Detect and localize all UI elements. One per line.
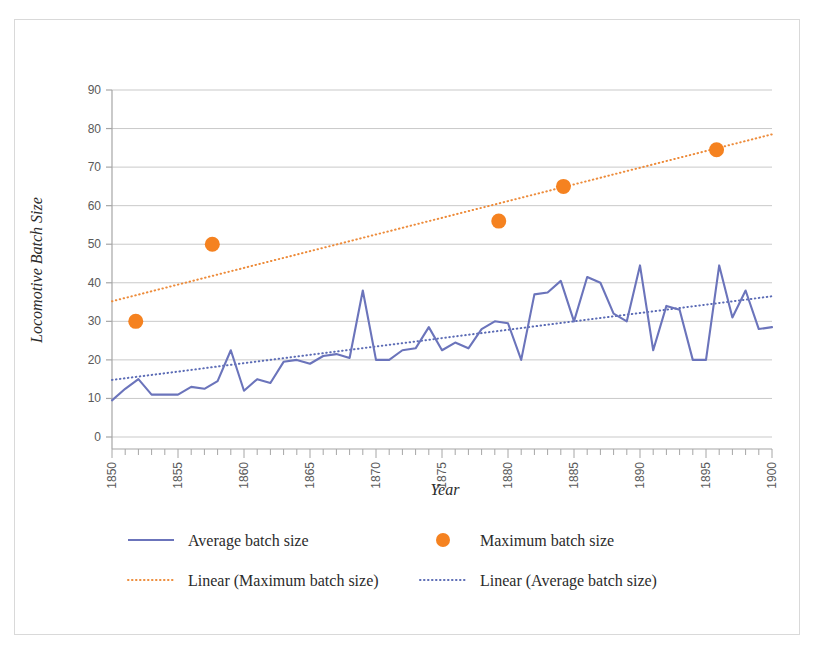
x-tick-label: 1880 <box>501 462 515 489</box>
y-tick-label: 20 <box>88 353 102 367</box>
legend-dot-swatch <box>436 533 450 547</box>
max-batch-point <box>128 314 143 329</box>
trendline <box>112 134 772 301</box>
y-tick-label: 0 <box>94 430 101 444</box>
x-tick-label: 1870 <box>369 462 383 489</box>
maximum-trendline <box>112 134 772 301</box>
y-axis-title: Locomotive Batch Size <box>28 197 45 344</box>
legend-item[interactable]: Average batch size <box>128 532 309 550</box>
max-batch-point <box>556 179 571 194</box>
y-tick-label: 60 <box>88 199 102 213</box>
legend-item[interactable]: Maximum batch size <box>436 532 614 549</box>
legend-item[interactable]: Linear (Maximum batch size) <box>128 572 379 590</box>
x-tick-label: 1890 <box>633 462 647 489</box>
average-series-path <box>112 265 772 400</box>
max-batch-point <box>205 237 220 252</box>
legend-label: Linear (Maximum batch size) <box>188 572 379 590</box>
y-tick-label: 40 <box>88 276 102 290</box>
x-tick-label: 1865 <box>303 462 317 489</box>
legend-label: Maximum batch size <box>480 532 614 549</box>
y-tick-label: 80 <box>88 122 102 136</box>
x-axis-ticks-group <box>112 449 772 458</box>
y-tick-label: 30 <box>88 314 102 328</box>
max-batch-point <box>709 142 724 157</box>
y-tick-label: 70 <box>88 160 102 174</box>
maximum-batch-size-markers <box>128 142 724 329</box>
chart-legend: Average batch sizeMaximum batch sizeLine… <box>128 532 657 590</box>
y-tick-label: 10 <box>88 391 102 405</box>
legend-item[interactable]: Linear (Average batch size) <box>420 572 657 590</box>
x-axis-title: Year <box>431 481 461 498</box>
x-tick-label: 1860 <box>237 462 251 489</box>
x-tick-label: 1895 <box>699 462 713 489</box>
average-batch-size-line <box>112 265 772 400</box>
x-tick-label: 1900 <box>765 462 779 489</box>
chart-canvas: 0102030405060708090 18501855186018651870… <box>0 0 815 654</box>
legend-label: Linear (Average batch size) <box>480 572 657 590</box>
y-axis-tick-labels: 0102030405060708090 <box>88 83 112 444</box>
legend-label: Average batch size <box>188 532 309 550</box>
x-tick-label: 1850 <box>105 462 119 489</box>
x-tick-label: 1855 <box>171 462 185 489</box>
max-batch-point <box>491 214 506 229</box>
y-tick-label: 90 <box>88 83 102 97</box>
x-tick-label: 1885 <box>567 462 581 489</box>
y-tick-label: 50 <box>88 237 102 251</box>
chart-figure: 0102030405060708090 18501855186018651870… <box>0 0 815 654</box>
